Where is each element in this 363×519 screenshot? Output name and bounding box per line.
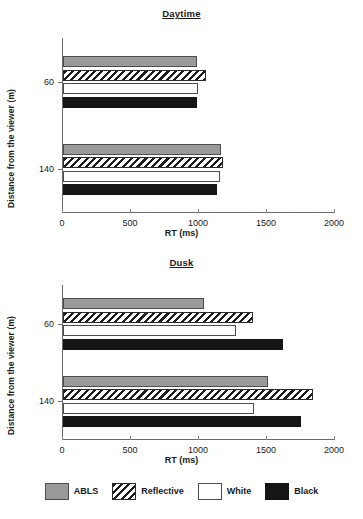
bar-daytime-60-black	[63, 97, 197, 108]
x-tick-daytime-500	[130, 209, 131, 213]
panel-title-daytime: Daytime	[0, 8, 363, 19]
solid-white-swatch	[198, 483, 222, 500]
y-tick-dusk-60	[58, 324, 62, 325]
bar-dusk-60-white	[63, 325, 236, 336]
bar-daytime-60-reflective	[63, 70, 206, 81]
x-tick-daytime-0	[62, 209, 63, 213]
legend-label-black: Black	[294, 486, 318, 496]
bar-dusk-60-abls	[63, 298, 204, 309]
y-tick-label-daytime-60: 60	[14, 77, 54, 87]
bar-daytime-140-abls	[63, 144, 221, 155]
x-tick-label-dusk-1000: 1000	[178, 445, 218, 455]
solid-black-swatch	[265, 483, 289, 500]
bar-dusk-140-black	[63, 416, 301, 427]
bar-daytime-140-reflective	[63, 157, 223, 168]
x-tick-daytime-1500	[266, 209, 267, 213]
x-tick-label-daytime-2000: 2000	[314, 218, 354, 228]
x-tick-label-dusk-500: 500	[110, 445, 150, 455]
x-tick-label-daytime-0: 0	[42, 218, 82, 228]
bar-daytime-60-abls	[63, 56, 197, 67]
x-tick-daytime-2000	[334, 209, 335, 213]
bar-daytime-140-black	[63, 184, 217, 195]
bar-dusk-140-white	[63, 403, 254, 414]
y-tick-label-daytime-140: 140	[14, 164, 54, 174]
bar-dusk-140-reflective	[63, 389, 313, 400]
legend-item-reflective: Reflective	[112, 483, 184, 500]
bar-dusk-140-abls	[63, 376, 268, 387]
diagonal-hatch-swatch	[112, 483, 136, 500]
bar-daytime-60-white	[63, 83, 198, 94]
solid-gray-swatch	[45, 483, 69, 500]
y-tick-dusk-140	[58, 401, 62, 402]
x-tick-dusk-500	[130, 436, 131, 440]
y-tick-daytime-60	[58, 82, 62, 83]
legend-label-reflective: Reflective	[141, 486, 184, 496]
x-axis-label-daytime: RT (ms)	[0, 228, 363, 238]
x-axis-label-dusk: RT (ms)	[0, 455, 363, 465]
plot-area-daytime: 050010001500200060140	[62, 38, 334, 213]
legend-item-abls: ABLS	[45, 483, 99, 500]
x-tick-dusk-1000	[198, 436, 199, 440]
legend-item-white: White	[198, 483, 252, 500]
y-axis-label-dusk: Distance from the viewer (m)	[6, 285, 16, 435]
legend-label-abls: ABLS	[74, 486, 99, 496]
y-axis-label-daytime: Distance from the viewer (m)	[6, 38, 16, 208]
x-tick-dusk-2000	[334, 436, 335, 440]
x-tick-label-dusk-2000: 2000	[314, 445, 354, 455]
x-tick-label-daytime-1000: 1000	[178, 218, 218, 228]
x-tick-label-daytime-500: 500	[110, 218, 150, 228]
chart-panel-daytime: Daytime Distance from the viewer (m) 050…	[0, 0, 363, 250]
x-tick-label-dusk-1500: 1500	[246, 445, 286, 455]
chart-legend: ABLSReflectiveWhiteBlack	[0, 470, 363, 512]
y-tick-daytime-140	[58, 169, 62, 170]
x-tick-label-daytime-1500: 1500	[246, 218, 286, 228]
x-tick-label-dusk-0: 0	[42, 445, 82, 455]
bar-dusk-60-reflective	[63, 312, 253, 323]
legend-label-white: White	[227, 486, 252, 496]
panel-title-dusk: Dusk	[0, 257, 363, 268]
legend-item-black: Black	[265, 483, 318, 500]
x-tick-daytime-1000	[198, 209, 199, 213]
x-tick-dusk-1500	[266, 436, 267, 440]
plot-area-dusk: 050010001500200060140	[62, 285, 334, 440]
y-tick-label-dusk-60: 60	[14, 319, 54, 329]
x-tick-dusk-0	[62, 436, 63, 440]
bar-dusk-60-black	[63, 339, 283, 350]
y-tick-label-dusk-140: 140	[14, 396, 54, 406]
chart-panel-dusk: Dusk Distance from the viewer (m) 050010…	[0, 255, 363, 465]
bar-daytime-140-white	[63, 171, 220, 182]
